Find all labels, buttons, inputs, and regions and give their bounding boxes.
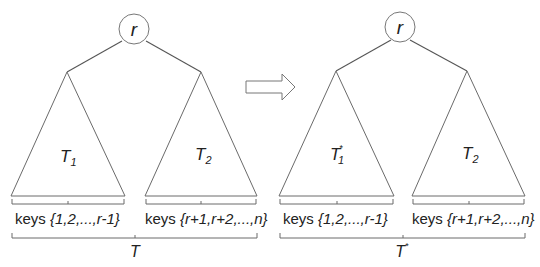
right-tree-subtree-t1-star [279,71,394,196]
right-tree-label: T* [395,241,409,260]
left-tree-left-keys-label: keys {1,2,...,r-1} [15,210,120,227]
left-tree-root-label: r [131,19,138,40]
right-tree-outer-brace [280,233,525,238]
left-tree-left-edge [67,41,122,72]
right-tree-t2-brace [413,199,524,204]
left-tree-right-keys-label: keys {r+1,r+2,...,n} [145,210,268,227]
right-tree-right-edge [410,40,467,71]
bst-diagram: r T1 T2 keys {1,2,...,r-1} keys {r+1,r+2… [0,0,540,267]
left-tree-t2-brace [146,199,256,204]
left-tree-label: T [130,243,141,260]
right-tree-t1-star-label: T*1 [330,143,344,166]
right-tree-t1-brace [280,199,393,204]
left-tree-right-edge [146,41,201,72]
right-tree-subtree-t2 [412,71,525,196]
left-tree-subtree-t2 [145,72,257,196]
right-tree-left-keys-label: keys {1,2,...,r-1} [283,210,388,227]
right-tree-left-edge [336,40,391,71]
left-tree-t1-brace [12,199,124,204]
right-tree-root-label: r [397,17,404,38]
transform-arrow-icon [246,74,295,100]
left-tree-outer-brace [12,233,257,238]
left-tree-subtree-t1 [11,72,125,196]
right-tree-right-keys-label: keys {r+1,r+2,...,n} [412,210,535,227]
left-tree: r T1 T2 keys {1,2,...,r-1} keys {r+1,r+2… [11,14,268,260]
right-tree: r T*1 T2 keys {1,2,...,r-1} keys {r+1,r+… [279,12,535,260]
